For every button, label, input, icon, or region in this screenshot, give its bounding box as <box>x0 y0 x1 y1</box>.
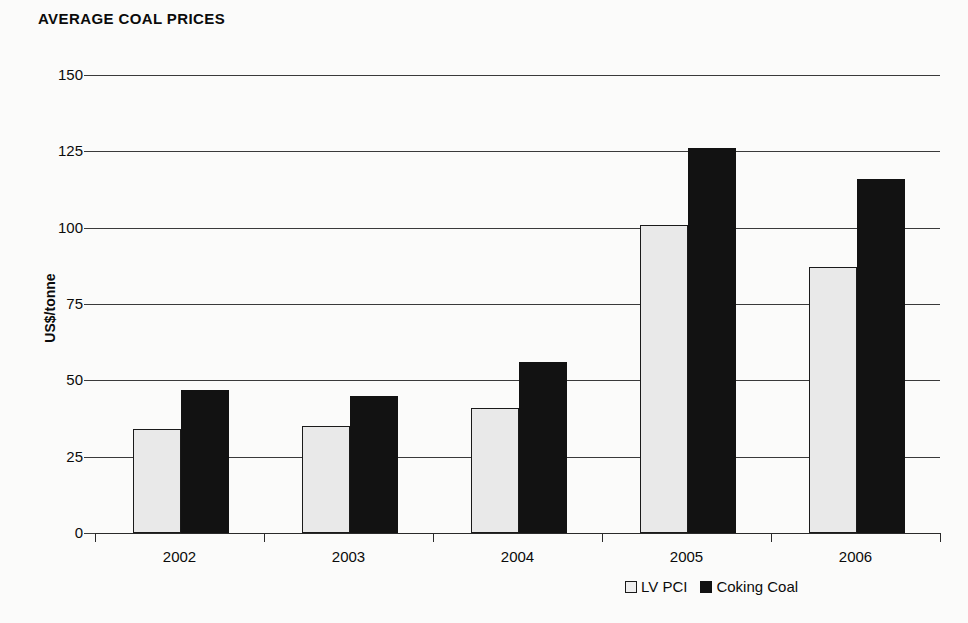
y-tick-mark-150 <box>84 75 95 76</box>
legend-label: LV PCI <box>641 578 687 595</box>
bar-2005-lv-pci <box>640 225 688 533</box>
y-tick-label-25: 25 <box>37 448 83 465</box>
y-tick-mark-50 <box>84 380 95 381</box>
bar-2005-coking-coal <box>688 148 736 533</box>
bar-group-2003 <box>264 75 433 533</box>
bar-group-2002 <box>95 75 264 533</box>
y-axis-tick-labels: 0255075100125150 <box>31 75 83 533</box>
y-tick-label-0: 0 <box>37 524 83 541</box>
dark-square-swatch <box>700 581 712 593</box>
light-square-swatch <box>625 581 637 593</box>
bar-group-2005 <box>602 75 771 533</box>
y-tick-label-150: 150 <box>37 66 83 83</box>
legend-label: Coking Coal <box>716 578 798 595</box>
x-axis-tick-0 <box>95 533 96 542</box>
y-tick-mark-25 <box>84 457 95 458</box>
x-axis-tick-3 <box>602 533 603 542</box>
chart-legend: LV PCICoking Coal <box>625 578 798 595</box>
y-tick-mark-0 <box>84 533 95 534</box>
chart-page: AVERAGE COAL PRICES US$/tonne 0255075100… <box>0 0 968 623</box>
bar-2004-coking-coal <box>519 362 567 533</box>
x-axis-label-2003: 2003 <box>289 548 409 565</box>
legend-entry-lv-pci: LV PCI <box>625 578 687 595</box>
x-axis-tick-2 <box>433 533 434 542</box>
bar-group-2006 <box>771 75 940 533</box>
bar-2006-lv-pci <box>809 267 857 533</box>
y-tick-label-75: 75 <box>37 295 83 312</box>
x-axis-label-2002: 2002 <box>120 548 240 565</box>
bars-layer <box>95 75 940 533</box>
x-axis-label-2004: 2004 <box>458 548 578 565</box>
bar-2002-lv-pci <box>133 429 181 533</box>
y-tick-label-125: 125 <box>37 142 83 159</box>
y-tick-mark-75 <box>84 304 95 305</box>
bar-2003-lv-pci <box>302 426 350 533</box>
bar-2004-lv-pci <box>471 408 519 533</box>
chart-title: AVERAGE COAL PRICES <box>38 10 225 27</box>
bar-2002-coking-coal <box>181 390 229 534</box>
bar-2006-coking-coal <box>857 179 905 533</box>
bar-2003-coking-coal <box>350 396 398 533</box>
legend-entry-coking-coal: Coking Coal <box>700 578 798 595</box>
bar-group-2004 <box>433 75 602 533</box>
y-tick-mark-100 <box>84 228 95 229</box>
y-tick-label-50: 50 <box>37 371 83 388</box>
plot-area <box>95 75 940 533</box>
x-axis-tick-4 <box>771 533 772 542</box>
x-axis-line <box>95 533 940 534</box>
x-axis-tick-5 <box>940 533 941 542</box>
x-axis-tick-1 <box>264 533 265 542</box>
x-axis-label-2006: 2006 <box>796 548 916 565</box>
y-tick-label-100: 100 <box>37 219 83 236</box>
x-axis-label-2005: 2005 <box>627 548 747 565</box>
y-tick-mark-125 <box>84 151 95 152</box>
